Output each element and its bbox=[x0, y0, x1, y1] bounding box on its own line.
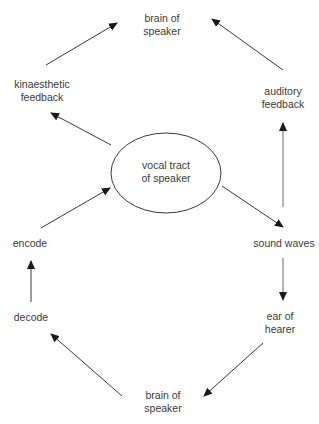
speech-chain-diagram: vocal tractof speaker brain ofspeakerkin… bbox=[0, 0, 319, 424]
brain-of-speaker-bottom-label-line-2: speaker bbox=[144, 402, 182, 414]
center-node: vocal tractof speaker bbox=[111, 133, 221, 213]
sound-waves-label-line-1: sound waves bbox=[253, 237, 314, 249]
arrow-encode-to-vocal-tract bbox=[41, 188, 110, 228]
brain-of-speaker-top-label-line-1: brain of bbox=[144, 12, 179, 24]
arrow-auditory-feedback-to-brain-of-speaker-top bbox=[212, 19, 283, 70]
arrow-kinaesthetic-feedback-to-brain-of-speaker-top bbox=[46, 23, 117, 65]
brain-of-speaker-bottom-label-line-1: brain of bbox=[145, 389, 180, 401]
decode-label-line-1: decode bbox=[14, 311, 49, 323]
ear-of-hearer-label-line-1: ear of bbox=[267, 310, 294, 322]
arrow-brain-of-speaker-bottom-to-decode bbox=[51, 334, 122, 396]
auditory-feedback-label-line-1: auditory bbox=[264, 85, 302, 97]
vocal-tract-label-line-2: of speaker bbox=[141, 172, 191, 184]
arrow-vocal-tract-to-kinaesthetic-feedback bbox=[51, 113, 111, 145]
ear-of-hearer-label-line-2: hearer bbox=[265, 323, 296, 335]
arrow-vocal-tract-to-sound-waves bbox=[222, 186, 283, 227]
encode-label-line-1: encode bbox=[13, 237, 48, 249]
auditory-feedback-label-line-2: feedback bbox=[262, 98, 305, 110]
vocal-tract-label-line-1: vocal tract bbox=[142, 159, 190, 171]
kinaesthetic-feedback-label-line-2: feedback bbox=[21, 91, 64, 103]
brain-of-speaker-top-label-line-2: speaker bbox=[143, 25, 181, 37]
kinaesthetic-feedback-label-line-1: kinaesthetic bbox=[14, 78, 69, 90]
arrow-ear-of-hearer-to-brain-of-speaker-bottom bbox=[204, 343, 263, 396]
